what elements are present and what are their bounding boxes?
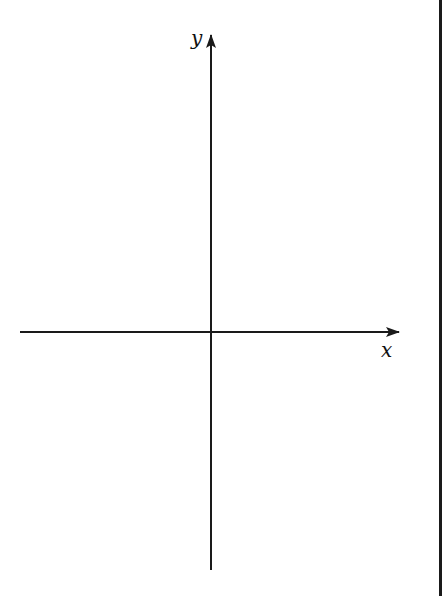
coordinate-plane bbox=[0, 0, 443, 596]
x-axis-label: x bbox=[381, 340, 392, 360]
right-border bbox=[439, 0, 442, 596]
y-axis-label: y bbox=[191, 28, 202, 48]
